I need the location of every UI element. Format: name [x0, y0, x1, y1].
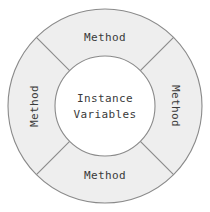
object-structure-diagram: Method Method Method Method Instance Var… [0, 0, 210, 212]
segment-label-right: Method [169, 85, 182, 127]
donut-diagram-canvas: Method Method Method Method Instance Var… [0, 0, 210, 212]
inner-circle-center [55, 56, 155, 156]
segment-label-top: Method [84, 31, 126, 44]
center-label-line1: Instance [77, 92, 133, 105]
segment-label-bottom: Method [84, 169, 126, 182]
segment-label-left: Method [28, 85, 41, 127]
center-label-line2: Variables [73, 108, 136, 121]
